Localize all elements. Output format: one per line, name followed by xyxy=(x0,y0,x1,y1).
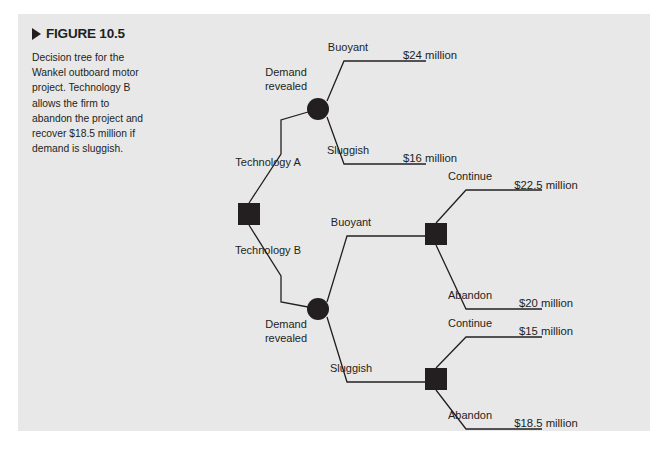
payoff-payoff-16: $16 million xyxy=(403,152,457,164)
branch-label-a-sluggish: Sluggish xyxy=(327,144,369,156)
tree-node-techA_chance xyxy=(307,98,329,120)
node-label-techA_chance-line2: revealed xyxy=(265,80,307,92)
payoff-payoff-24: $24 million xyxy=(403,49,457,61)
branch-label-sluggish-continue: Continue xyxy=(448,317,492,329)
tree-node-buoyant_decision xyxy=(425,223,447,245)
tree-node-root xyxy=(238,203,260,225)
edge-sluggish-continue xyxy=(436,337,542,368)
branch-label-technology-a: Technology A xyxy=(235,156,301,168)
branch-label-buoyant-abandon: Abandon xyxy=(448,289,492,301)
branch-label-technology-b: Technology B xyxy=(235,244,301,256)
tree-node-techB_chance xyxy=(307,298,329,320)
decision-tree-diagram: Technology ATechnology BBuoyantSluggishB… xyxy=(18,14,650,431)
payoff-payoff-18-5: $18.5 million xyxy=(514,417,577,429)
edge-buoyant-continue xyxy=(436,190,542,223)
figure-panel: FIGURE 10.5 Decision tree for the Wankel… xyxy=(18,14,650,431)
edge-a-buoyant xyxy=(327,61,426,101)
tree-branch-labels: Technology ATechnology BBuoyantSluggishB… xyxy=(235,41,492,421)
edge-technology-b xyxy=(249,225,308,307)
branch-label-b-sluggish: Sluggish xyxy=(330,362,372,374)
branch-label-buoyant-continue: Continue xyxy=(448,170,492,182)
node-label-techB_chance-line1: Demand xyxy=(265,318,307,330)
node-label-techB_chance-line2: revealed xyxy=(265,332,307,344)
payoff-payoff-15: $15 million xyxy=(519,325,573,337)
edge-b-buoyant xyxy=(327,236,425,302)
branch-label-b-buoyant: Buoyant xyxy=(331,216,371,228)
node-label-techA_chance-line1: Demand xyxy=(265,66,307,78)
payoff-payoff-22-5: $22.5 million xyxy=(514,179,577,191)
payoff-payoff-20: $20 million xyxy=(519,297,573,309)
branch-label-sluggish-abandon: Abandon xyxy=(448,409,492,421)
tree-node-sluggish_decision xyxy=(425,368,447,390)
branch-label-a-buoyant: Buoyant xyxy=(328,41,368,53)
